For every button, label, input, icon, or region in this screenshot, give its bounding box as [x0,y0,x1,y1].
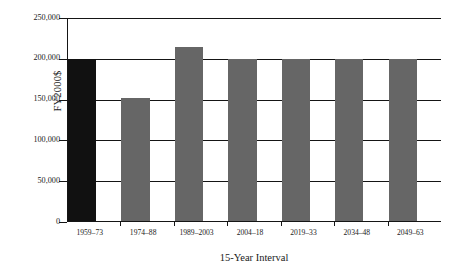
x-tick-mark [281,222,282,226]
x-axis-tick-labels: 1959–731974–881989–20032004–182019–33203… [67,228,441,242]
x-tick-label: 1989–2003 [170,228,223,237]
y-tick-mark [59,18,67,19]
y-tick-mark [59,140,67,141]
x-tick-mark [227,222,228,226]
bar [335,59,363,222]
x-tick-mark [388,222,389,226]
y-tick-label: 250,000 [16,13,60,22]
bar [228,59,256,222]
x-tick-label: 2034–48 [330,228,383,237]
x-tick-label: 2049–63 [384,228,437,237]
bar [175,47,203,222]
y-tick-mark [59,181,67,182]
y-tick-label: 50,000 [16,176,60,185]
gridline [67,18,441,19]
x-tick-label: 2019–33 [277,228,330,237]
y-axis-tick-labels: 050,000100,000150,000200,000250,000 [12,0,60,278]
y-tick-mark [59,59,67,60]
bar [68,59,96,222]
x-tick-mark [334,222,335,226]
bar [389,59,417,222]
y-tick-label: 100,000 [16,135,60,144]
y-tick-mark [59,100,67,101]
y-tick-label: 150,000 [16,94,60,103]
y-tick-mark [59,222,67,223]
x-tick-mark [174,222,175,226]
y-tick-label: 0 [16,217,60,226]
plot-area [67,18,441,222]
bar [282,59,310,222]
x-tick-label: 1959–73 [63,228,116,237]
x-tick-mark [120,222,121,226]
x-tick-label: 2004–18 [223,228,276,237]
x-tick-label: 1974–88 [116,228,169,237]
x-axis-title: 15-Year Interval [67,252,441,263]
bar [121,98,149,222]
bar-chart: FY2000$ 050,000100,000150,000200,000250,… [0,0,463,278]
x-axis-line [67,221,441,222]
y-tick-label: 200,000 [16,53,60,62]
